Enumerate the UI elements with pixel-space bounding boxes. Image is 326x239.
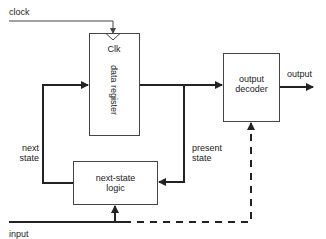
clock-label: clock <box>9 7 30 17</box>
fsm-block-diagram: clock Clk data register output decoder o… <box>0 0 326 239</box>
output-decoder-label-line2: decoder <box>223 84 280 94</box>
input-label: input <box>9 229 29 239</box>
present-state-label-line1: present <box>192 143 222 153</box>
present-state-label-line2: state <box>192 153 212 163</box>
next-state-logic-label-line1: next-state <box>73 173 158 183</box>
output-decoder-label-line1: output <box>223 74 280 84</box>
output-label: output <box>287 69 312 79</box>
clock-wire <box>9 21 113 33</box>
next-state-label-line2: state <box>16 153 39 163</box>
next-state-logic-label-line2: logic <box>73 183 158 193</box>
data-register-label: data register <box>109 50 119 130</box>
diagram-wires <box>0 0 326 239</box>
next-state-label-line1: next <box>19 143 39 153</box>
